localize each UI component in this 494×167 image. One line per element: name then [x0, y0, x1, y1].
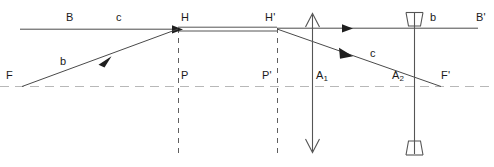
label-b: B: [66, 12, 74, 23]
label-a2-base: A: [392, 69, 400, 81]
label-ray-c-in: c: [116, 12, 122, 23]
label-a2: A2: [392, 70, 404, 83]
ray-incoming-focal: [22, 29, 178, 87]
label-a1: A1: [316, 70, 328, 83]
label-p: P: [181, 70, 189, 81]
label-h-prime: H': [265, 12, 275, 23]
label-h: H: [181, 12, 189, 23]
optical-ray-diagram: B c H H' b B' b c F P P' A1 A2 F': [0, 0, 494, 167]
label-p-prime: P': [262, 70, 272, 81]
label-a1-base: A: [316, 69, 324, 81]
ray-outgoing-focal-arrowhead: [339, 48, 353, 59]
label-b-prime: B': [476, 12, 486, 23]
diagram-canvas: [0, 0, 494, 167]
label-a2-subscript: 2: [400, 74, 405, 83]
label-a1-subscript: 1: [324, 74, 329, 83]
ray-outgoing-axial-arrowhead: [342, 24, 353, 32]
label-f-prime: F': [441, 70, 450, 81]
label-ray-b-in: b: [60, 56, 66, 67]
label-ray-c-out: c: [370, 48, 376, 59]
label-ray-b-out: b: [430, 12, 436, 23]
ray-outgoing-focal: [277, 29, 441, 87]
label-f: F: [6, 70, 13, 81]
